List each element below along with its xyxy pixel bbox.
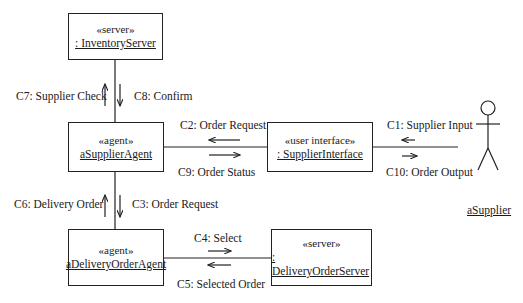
object-name: : SupplierInterface — [277, 147, 363, 161]
actor-label: aSupplier — [467, 204, 511, 217]
message-c6-label: C6: Delivery Order — [14, 198, 103, 211]
stereotype-label: «user interface» — [285, 134, 356, 147]
message-c2-label: C2: Order Request — [180, 119, 266, 132]
object-name: : DeliveryOrderServer — [272, 250, 371, 278]
object-inventory-server[interactable]: «server» : InventoryServer — [68, 13, 163, 60]
message-c5-label: C5: Selected Order — [177, 278, 265, 291]
message-c8-label: C8: Confirm — [134, 90, 192, 103]
stereotype-label: «server» — [303, 237, 341, 250]
stereotype-label: «server» — [97, 23, 135, 36]
message-c4-label: C4: Select — [194, 232, 242, 245]
message-c1-label: C1: Supplier Input — [387, 119, 473, 132]
message-c7-label: C7: Supplier Check — [16, 90, 107, 103]
object-name: aSupplierAgent — [80, 147, 152, 161]
object-supplier-interface[interactable]: «user interface» : SupplierInterface — [267, 122, 373, 172]
object-delivery-order-server[interactable]: «server» : DeliveryOrderServer — [271, 229, 372, 286]
message-c9-label: C9: Order Status — [178, 166, 255, 179]
object-name: : InventoryServer — [75, 36, 156, 50]
stereotype-label: «agent» — [99, 244, 134, 257]
object-name: aDeliveryOrderAgent — [66, 257, 166, 271]
object-delivery-order-agent[interactable]: «agent» aDeliveryOrderAgent — [68, 229, 164, 286]
actor-stick-figure-icon — [476, 101, 500, 170]
message-c3-label: C3: Order Request — [132, 198, 218, 211]
stereotype-label: «agent» — [99, 134, 134, 147]
message-c10-label: C10: Order Output — [386, 166, 473, 179]
object-supplier-agent[interactable]: «agent» aSupplierAgent — [68, 122, 164, 172]
